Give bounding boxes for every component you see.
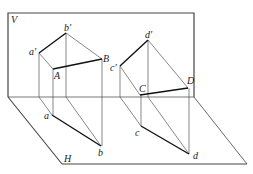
label-b: b [98,147,103,158]
label-c: c [135,127,140,138]
label-C: C [139,83,146,94]
label-h-plane: H [63,153,72,164]
label-d: d [193,150,199,161]
label-a: a [44,110,49,121]
label-A: A [53,70,61,81]
label-D: D [186,75,195,86]
label-B: B [103,53,109,64]
segment-ab-construction [39,33,102,146]
label-a-prime: a' [29,46,37,57]
label-c-prime: c' [110,62,117,73]
label-b-prime: b' [64,22,72,33]
label-d-prime: d' [145,29,153,40]
segment-ab-lines [39,33,102,146]
projection-diagram: V H a' b' A B a b c' d' C D c d [0,0,253,174]
label-v-plane: V [11,14,19,25]
